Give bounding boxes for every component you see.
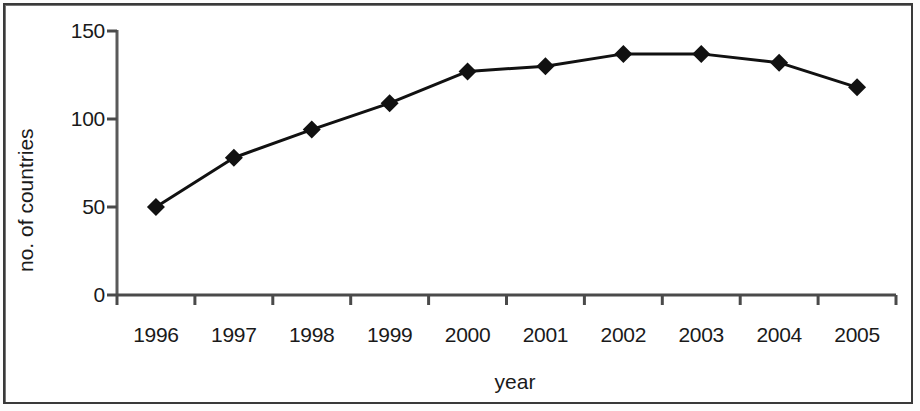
data-point-marker: [848, 78, 866, 96]
chart-canvas: [0, 0, 920, 411]
data-point-marker: [692, 45, 710, 63]
data-point-marker: [614, 45, 632, 63]
plot-area: 050100150 199619971998199920002001200220…: [0, 0, 920, 411]
x-axis-tick-label: 1997: [211, 323, 257, 347]
data-point-marker: [770, 54, 788, 72]
data-point-marker: [225, 149, 243, 167]
data-line: [156, 54, 857, 207]
x-axis-tick-label: 2000: [445, 323, 491, 347]
data-point-marker: [381, 94, 399, 112]
y-axis-tick-label: 0: [40, 283, 105, 307]
data-point-marker: [303, 121, 321, 139]
data-point-marker: [147, 198, 165, 216]
x-axis-tick-label: 1998: [289, 323, 335, 347]
x-axis-tick-label: 1999: [367, 323, 413, 347]
y-axis-tick-label: 150: [40, 19, 105, 43]
x-axis-tick-label: 2002: [601, 323, 647, 347]
data-point-marker: [459, 62, 477, 80]
x-axis-tick-label: 2001: [523, 323, 569, 347]
x-axis-title: year: [495, 370, 536, 394]
y-axis-tick-label: 100: [40, 107, 105, 131]
y-axis-tick-label: 50: [40, 195, 105, 219]
x-axis-tick-label: 2005: [834, 323, 880, 347]
chart-figure: 050100150 199619971998199920002001200220…: [0, 0, 920, 411]
x-axis-tick-label: 2003: [678, 323, 724, 347]
data-point-marker: [536, 57, 554, 75]
x-axis-tick-label: 2004: [756, 323, 802, 347]
data-markers: [147, 45, 866, 216]
y-axis-title: no. of countries: [14, 128, 38, 272]
x-axis-tick-label: 1996: [133, 323, 179, 347]
